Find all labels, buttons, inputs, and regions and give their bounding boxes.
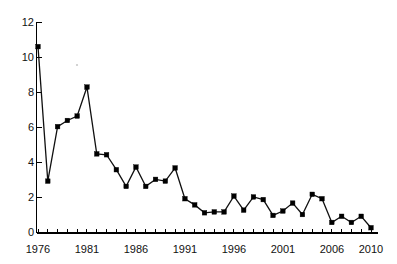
- y-axis-tick-labels: 12 10 8 6 4 2 0: [22, 16, 34, 238]
- data-point-marker: [251, 195, 256, 200]
- x-tick-label-1996: 1996: [222, 243, 246, 255]
- data-point-marker: [163, 179, 168, 184]
- data-point-marker: [349, 220, 354, 225]
- data-point-marker: [143, 184, 148, 189]
- data-point-marker: [124, 184, 129, 189]
- data-point-marker: [212, 210, 217, 215]
- y-tick-label-0: 0: [28, 226, 34, 238]
- data-point-marker: [75, 114, 80, 119]
- data-point-marker: [85, 85, 90, 90]
- data-point-marker: [281, 209, 286, 214]
- data-point-marker: [94, 152, 99, 157]
- data-point-marker: [261, 197, 266, 202]
- x-tick-label-1991: 1991: [173, 243, 197, 255]
- data-point-marker: [222, 210, 227, 215]
- data-point-marker: [339, 214, 344, 219]
- data-point-marker: [55, 124, 60, 129]
- y-tick-label-8: 8: [28, 86, 34, 98]
- x-tick-label-2001: 2001: [271, 243, 295, 255]
- data-point-markers: [36, 44, 374, 230]
- data-point-marker: [173, 166, 178, 171]
- x-axis-ticks: [38, 229, 371, 233]
- x-tick-label-2010: 2010: [359, 243, 383, 255]
- y-tick-label-2: 2: [28, 191, 34, 203]
- data-point-marker: [369, 225, 374, 230]
- x-tick-label-2006: 2006: [320, 243, 344, 255]
- data-point-marker: [45, 179, 50, 184]
- x-axis-tick-labels: 1976 1981 1986 1991 1996 2001 2006 2010: [26, 243, 383, 255]
- x-tick-label-1986: 1986: [124, 243, 148, 255]
- data-point-marker: [241, 208, 246, 213]
- data-point-marker: [300, 212, 305, 217]
- y-tick-label-6: 6: [28, 121, 34, 133]
- data-point-marker: [36, 44, 41, 49]
- data-point-marker: [310, 192, 315, 197]
- data-point-marker: [192, 203, 197, 208]
- y-tick-label-4: 4: [28, 156, 34, 168]
- data-point-marker: [290, 201, 295, 206]
- line-chart: 12 10 8 6 4 2 0 1976 1981 1986 1991 1996…: [0, 0, 397, 264]
- data-point-marker: [104, 152, 109, 157]
- y-tick-label-10: 10: [22, 51, 34, 63]
- data-point-marker: [232, 194, 237, 199]
- chart-canvas: 12 10 8 6 4 2 0 1976 1981 1986 1991 1996…: [0, 0, 397, 264]
- x-tick-label-1976: 1976: [26, 243, 50, 255]
- x-tick-label-1981: 1981: [75, 243, 99, 255]
- data-point-marker: [153, 177, 158, 182]
- data-point-marker: [202, 210, 207, 215]
- data-point-marker: [114, 167, 119, 172]
- data-point-marker: [271, 213, 276, 218]
- data-point-marker: [359, 214, 364, 219]
- data-point-marker: [65, 118, 70, 123]
- scan-speck: [76, 64, 78, 66]
- data-point-marker: [330, 220, 335, 225]
- y-tick-label-12: 12: [22, 16, 34, 28]
- data-point-marker: [320, 196, 325, 201]
- data-point-marker: [134, 165, 139, 170]
- data-point-marker: [183, 196, 188, 201]
